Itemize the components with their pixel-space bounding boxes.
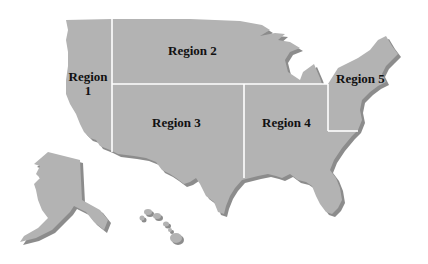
region-2-label: Region 2 bbox=[168, 44, 217, 58]
hawaii bbox=[140, 209, 183, 243]
region-4-label: Region 4 bbox=[262, 116, 311, 130]
region-1-label-line1: Region bbox=[66, 70, 110, 84]
region-1-label: Region 1 bbox=[66, 70, 110, 98]
region-5-label: Region 5 bbox=[336, 72, 385, 86]
region-1-label-line2: 1 bbox=[66, 84, 110, 98]
alaska bbox=[20, 152, 108, 242]
region-3-label: Region 3 bbox=[152, 116, 201, 130]
us-regions-map bbox=[0, 0, 428, 264]
mainland-us bbox=[66, 19, 398, 214]
